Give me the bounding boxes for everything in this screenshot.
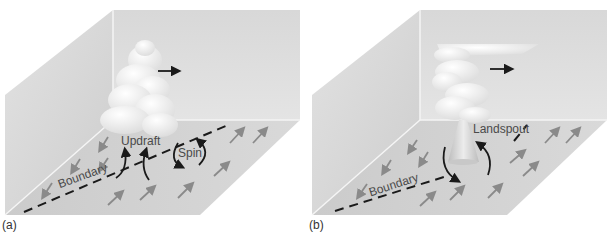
spin-label: Spin — [178, 146, 202, 160]
panel-letter-a: (a) — [2, 218, 17, 232]
panel-b: Landspout Boundary (b) — [307, 0, 615, 236]
panel-b-scene — [307, 0, 615, 236]
updraft-label: Updraft — [121, 134, 160, 148]
panel-a-scene — [0, 0, 308, 236]
panel-letter-b: (b) — [309, 218, 324, 232]
panel-a: Updraft Spin Boundary (a) — [0, 0, 308, 236]
landspout-label: Landspout — [473, 122, 529, 136]
